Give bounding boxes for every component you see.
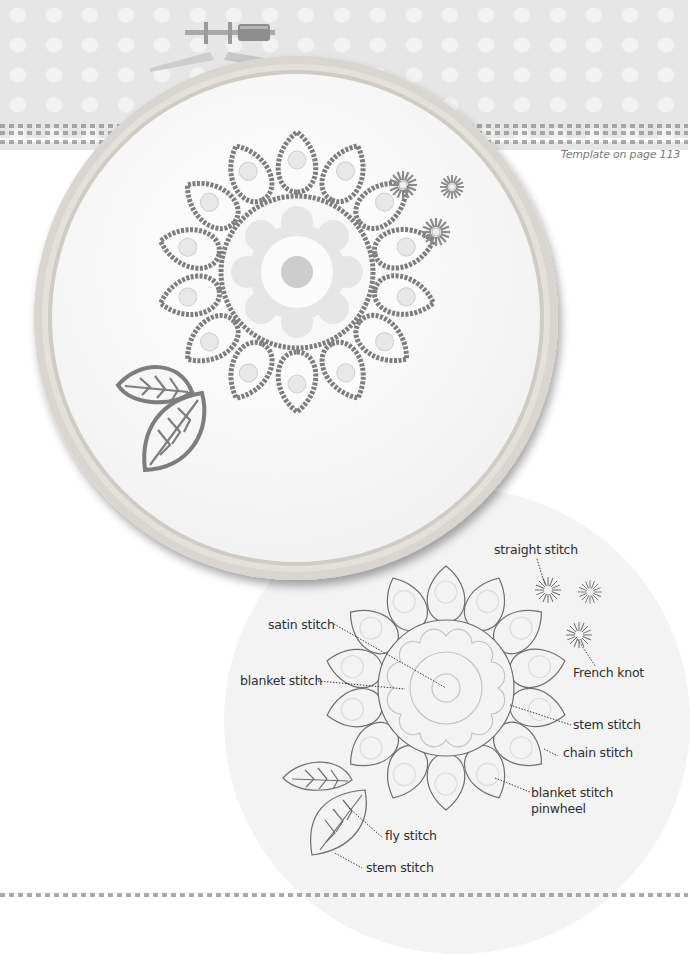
label-blanket-stitch: blanket stitch — [240, 673, 322, 688]
label-satin-stitch: satin stitch — [268, 617, 335, 632]
label-stem-stitch-flower: stem stitch — [573, 717, 641, 732]
label-french-knot: French knot — [573, 665, 644, 680]
diagram-leaves — [283, 762, 366, 855]
label-chain-stitch: chain stitch — [563, 745, 633, 760]
label-blanket-stitch-pinwheel-line2: pinwheel — [531, 801, 586, 816]
label-blanket-stitch-pinwheel-line1: blanket stitch — [531, 785, 613, 800]
dotted-divider-bottom — [0, 893, 688, 897]
label-straight-stitch: straight stitch — [494, 542, 578, 557]
diagram-straight-stitch-bursts — [531, 573, 605, 652]
label-fly-stitch: fly stitch — [385, 828, 437, 843]
label-stem-stitch-leaf: stem stitch — [366, 860, 434, 875]
diagram-flower-outline — [323, 566, 569, 810]
